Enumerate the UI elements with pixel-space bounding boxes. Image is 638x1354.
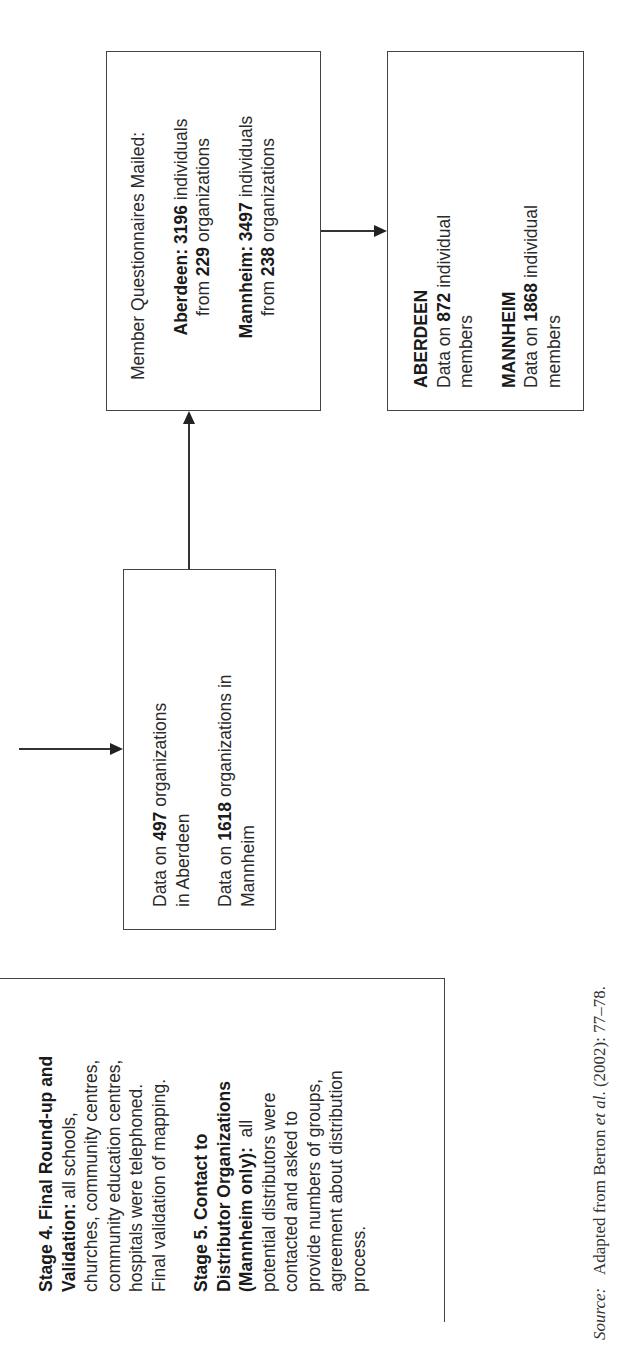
questionnaires-aberdeen: Aberdeen: 3196 individuals from 229 orga…	[170, 74, 215, 380]
org-aberdeen-line2: in Aberdeen	[173, 814, 193, 907]
q-mannheim-organizations: 238	[258, 247, 278, 276]
stage5-body-first: all	[236, 1120, 256, 1138]
members-mannheim-prefix: Data on	[521, 322, 541, 388]
members-mannheim-label: MANNHEIM	[499, 292, 519, 388]
q-aberdeen-individuals: 3196	[171, 205, 191, 244]
org-aberdeen-suffix: organizations	[150, 703, 170, 812]
stage4-body-0: all schools,	[59, 1112, 79, 1199]
arrow-shaft-to-organizations	[19, 749, 111, 751]
stage5-body-0: potential distributors were	[259, 1093, 279, 1292]
stage5-body-3: agreement about distribution	[326, 1070, 346, 1292]
members-aberdeen-suffix: individual	[434, 215, 454, 293]
members-mannheim-line2: members	[544, 315, 564, 388]
q-mannheim-label: Mannheim:	[236, 246, 256, 338]
stage5-body-1: contacted and asked to	[281, 1111, 301, 1292]
organizations-aberdeen: Data on 497 organizations in Aberdeen	[149, 570, 194, 907]
stage5-heading-1: Stage 5. Contact to	[191, 1134, 211, 1293]
q-aberdeen-from: from	[193, 276, 213, 316]
stage4-body-3: hospitals were telephoned.	[126, 1084, 146, 1292]
members-aberdeen-label: ABERDEEN	[411, 290, 431, 388]
questionnaires-box: Member Questionnaires Mailed: Aberdeen: …	[106, 51, 321, 411]
organizations-mannheim: Data on 1618 organizations in Mannheim	[214, 570, 259, 907]
arrow-head-to-members	[374, 225, 387, 237]
stage5-body-2: provide numbers of groups,	[304, 1079, 324, 1292]
q-aberdeen-label: Aberdeen:	[171, 249, 191, 336]
org-mannheim-suffix: organizations in	[215, 674, 235, 801]
q-aberdeen-individuals-suffix: individuals	[171, 119, 191, 206]
members-mannheim: MANNHEIM Data on 1868 individual members	[498, 52, 566, 388]
members-aberdeen-line2: members	[456, 315, 476, 388]
members-mannheim-suffix: individual	[521, 205, 541, 283]
members-aberdeen: ABERDEEN Data on 872 individual members	[410, 52, 478, 388]
stage5-heading-3: (Mannheim only):	[236, 1147, 256, 1292]
stage4-body-4: Final validation of mapping.	[149, 1079, 169, 1292]
organizations-box: Data on 497 organizations in Aberdeen Da…	[123, 569, 276, 930]
q-aberdeen-organizations-suffix: organizations	[193, 138, 213, 247]
members-aberdeen-count: 872	[434, 293, 454, 322]
source-label: Source:	[590, 1288, 609, 1340]
members-aberdeen-prefix: Data on	[434, 322, 454, 388]
q-aberdeen-organizations: 229	[193, 247, 213, 276]
arrow-shaft-to-members	[321, 231, 375, 233]
arrow-head-to-organizations	[110, 743, 123, 755]
stages-box: Stage 4. Final Round-up and Validation: …	[0, 978, 445, 1322]
org-aberdeen-count: 497	[150, 812, 170, 841]
stage5-text: Stage 5. Contact to Distributor Organiza…	[190, 979, 370, 1292]
q-mannheim-individuals: 3497	[236, 202, 256, 241]
stage4-text: Stage 4. Final Round-up and Validation: …	[35, 979, 170, 1292]
org-mannheim-line2: Mannheim	[238, 825, 258, 907]
stage4-body-2: community education centres,	[104, 1060, 124, 1292]
questionnaires-title: Member Questionnaires Mailed:	[127, 74, 150, 380]
stage4-body-1: churches, community centres,	[81, 1060, 101, 1292]
source-text-before: Adapted from Berton	[590, 1125, 609, 1275]
stage5-body-4: process.	[349, 1226, 369, 1292]
source-note: Source: Adapted from Berton et al. (2002…	[590, 986, 610, 1340]
questionnaires-mannheim: Mannheim: 3497 individuals from 238 orga…	[235, 74, 280, 380]
arrow-shaft-to-questionnaires	[188, 423, 190, 569]
q-mannheim-organizations-suffix: organizations	[258, 138, 278, 247]
stage5-heading-2: Distributor Organizations	[214, 1081, 234, 1292]
org-aberdeen-prefix: Data on	[150, 841, 170, 907]
source-text-after: . (2002): 77–78.	[590, 986, 609, 1096]
q-mannheim-individuals-suffix: individuals	[236, 116, 256, 203]
arrow-head-to-questionnaires	[183, 411, 195, 424]
rotated-page: Stage 4. Final Round-up and Validation: …	[0, 0, 638, 1354]
members-mannheim-count: 1868	[521, 283, 541, 322]
members-box: ABERDEEN Data on 872 individual members …	[387, 51, 584, 411]
org-mannheim-count: 1618	[215, 802, 235, 841]
q-mannheim-from: from	[258, 276, 278, 316]
source-et-al: et al	[590, 1096, 609, 1126]
org-mannheim-prefix: Data on	[215, 841, 235, 907]
